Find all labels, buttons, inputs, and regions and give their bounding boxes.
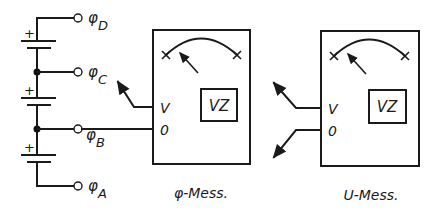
wire-d	[37, 18, 74, 41]
plus-sign: +	[24, 26, 35, 41]
battery-cell-2: +	[22, 83, 55, 105]
phi-symbol: φ	[88, 177, 98, 195]
needle-icon	[180, 53, 198, 73]
meter-scale-arc	[334, 40, 405, 57]
display-label: VZ	[377, 98, 398, 116]
label-phi-a: φ A	[88, 177, 107, 201]
scale-end-mark-left	[162, 51, 170, 59]
scale-end-mark-left	[330, 52, 338, 60]
label-phi-d: φ D	[88, 9, 108, 33]
battery-cell-3: +	[22, 140, 55, 162]
meter-caption: φ-Mess.	[174, 185, 228, 201]
input-label-v: V	[328, 101, 339, 117]
probe-lead-v[interactable]	[118, 82, 153, 107]
terminal-a[interactable]	[74, 182, 82, 190]
input-label-0: 0	[160, 122, 169, 138]
probe-lead-0[interactable]	[274, 130, 321, 157]
subscript: D	[98, 18, 108, 33]
circuit-diagram: + + + φ D φ C	[0, 0, 444, 217]
display-label: VZ	[209, 97, 230, 115]
wire-a	[37, 162, 74, 186]
subscript: C	[98, 72, 108, 87]
terminal-d[interactable]	[74, 14, 82, 22]
meter-phi: VZ V 0 φ-Mess.	[82, 30, 250, 201]
scale-end-mark-right	[233, 51, 241, 59]
input-label-0: 0	[328, 123, 337, 139]
label-phi-c: φ C	[88, 63, 108, 87]
phi-symbol: φ	[88, 9, 98, 27]
battery-stack: + + + φ D φ C	[22, 9, 108, 201]
subscript: B	[96, 135, 105, 150]
scale-end-mark-right	[401, 52, 409, 60]
terminal-b[interactable]	[74, 125, 82, 133]
plus-sign: +	[24, 83, 35, 98]
meter-caption: U-Mess.	[343, 187, 398, 203]
terminal-c[interactable]	[74, 68, 82, 76]
input-label-v: V	[160, 100, 171, 116]
meter-scale-arc	[166, 39, 237, 56]
probe-lead-v[interactable]	[274, 83, 321, 108]
plus-sign: +	[24, 140, 35, 155]
battery-cell-1: +	[22, 26, 55, 48]
needle-icon	[348, 54, 366, 74]
phi-symbol: φ	[88, 63, 98, 81]
meter-u: VZ V 0 U-Mess.	[274, 31, 419, 203]
subscript: A	[97, 186, 107, 201]
